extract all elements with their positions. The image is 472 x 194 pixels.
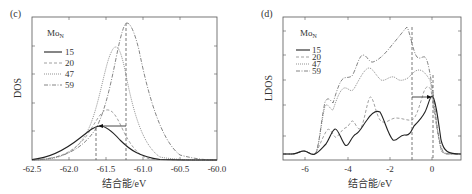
svg-text:-62.5: -62.5: [23, 164, 42, 174]
panel-c: (c) -62.5 -62.0 -61.5 -61.0 -60.5 -60.0 …: [10, 8, 227, 189]
svg-text:-2: -2: [386, 164, 394, 174]
svg-text:-60.0: -60.0: [208, 164, 227, 174]
x-axis-label-d: 结合能/eV: [348, 177, 393, 189]
x-axis-label-c: 结合能/eV: [102, 177, 147, 189]
y-axis-label-c: DOS: [12, 78, 23, 98]
svg-text:0: 0: [430, 164, 435, 174]
curve-d-15: [283, 96, 461, 154]
curve-d-47: [283, 68, 461, 154]
svg-text:-61.0: -61.0: [134, 164, 153, 174]
curve-c-47: [32, 47, 217, 160]
svg-text:59: 59: [312, 66, 322, 76]
svg-text:-60.5: -60.5: [171, 164, 190, 174]
x-ticks-d: [283, 17, 461, 160]
legend-c: MoN 15 20 47 59: [44, 28, 75, 90]
legend-d: MoN 15 20 47 59: [296, 28, 322, 76]
curve-c-20: [32, 110, 217, 160]
curve-d-20: [283, 87, 461, 155]
y-axis-label-d: LDOS: [263, 75, 274, 101]
svg-text:47: 47: [65, 69, 75, 79]
arrow-head-c: [98, 124, 103, 128]
svg-text:20: 20: [65, 58, 75, 68]
curve-c-15: [32, 126, 217, 160]
svg-text:15: 15: [65, 47, 75, 57]
plot-frame-d: [283, 17, 461, 160]
svg-text:-62.0: -62.0: [60, 164, 79, 174]
panel-label-d: (d): [261, 8, 273, 20]
svg-text:-6: -6: [301, 164, 309, 174]
svg-text:MoN: MoN: [300, 28, 318, 39]
svg-text:59: 59: [65, 80, 75, 90]
panel-label-c: (c): [10, 8, 21, 20]
svg-text:MoN: MoN: [47, 28, 65, 39]
x-tick-labels-c: -62.5 -62.0 -61.5 -61.0 -60.5 -60.0: [23, 164, 227, 174]
svg-text:-4: -4: [344, 164, 352, 174]
curve-c-59: [32, 23, 217, 160]
figure: (c) -62.5 -62.0 -61.5 -61.0 -60.5 -60.0 …: [0, 0, 472, 194]
arrow-head-d: [427, 95, 432, 99]
svg-text:-61.5: -61.5: [97, 164, 116, 174]
curve-d-59: [283, 27, 461, 154]
panel-d: (d) -6 -4 -2 0 结合能/eV LDOS: [261, 8, 461, 189]
x-tick-labels-d: -6 -4 -2 0: [301, 164, 435, 174]
